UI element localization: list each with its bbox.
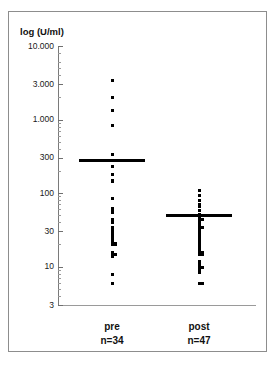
data-point [198, 194, 201, 197]
group-label-post-count: n=47 [159, 334, 239, 348]
y-axis-major-tick [58, 84, 63, 85]
y-axis-tick-label: 3 [8, 300, 54, 310]
data-point [111, 273, 114, 276]
y-axis-minor-tick [58, 289, 61, 290]
data-point [111, 124, 114, 127]
data-point [111, 173, 114, 176]
data-point [111, 211, 114, 214]
data-point [198, 189, 201, 192]
y-axis-minor-tick [58, 123, 61, 124]
y-axis-minor-tick [58, 53, 61, 54]
y-axis-title: log (U/ml) [20, 26, 64, 37]
y-axis-minor-tick [58, 222, 61, 223]
data-point [111, 197, 114, 200]
y-axis-minor-tick [58, 136, 61, 137]
plot-area: log (U/ml) 10.0003.0001.00030010030103 p… [0, 0, 278, 365]
median-line-post [166, 214, 232, 217]
y-axis-tick-label: 10.000 [8, 41, 54, 51]
y-axis-major-tick [58, 158, 63, 159]
y-axis-tick-label: 1.000 [8, 114, 54, 124]
data-point [114, 253, 117, 256]
y-axis-minor-tick [58, 127, 61, 128]
y-axis-tick-label-text: 3 [10, 300, 54, 310]
y-axis-major-tick [58, 267, 63, 268]
median-line-pre [79, 159, 145, 162]
data-point [111, 255, 114, 258]
data-point [111, 180, 114, 183]
data-point [111, 165, 114, 168]
data-point [201, 218, 204, 221]
y-axis-minor-tick [58, 270, 61, 271]
y-axis-major-tick [58, 193, 63, 194]
y-axis-minor-tick [58, 68, 61, 69]
data-point [111, 79, 114, 82]
y-axis-minor-tick [58, 274, 61, 275]
y-axis-minor-tick [58, 75, 61, 76]
y-axis-minor-tick [58, 171, 61, 172]
data-point [201, 282, 204, 285]
data-point [111, 282, 114, 285]
data-point [114, 243, 117, 246]
group-label-post: post n=47 [159, 320, 239, 348]
group-label-pre: pre n=34 [72, 320, 152, 348]
y-axis-tick-label-text: 30 [10, 226, 54, 236]
y-axis-tick-label: 100 [8, 188, 54, 198]
y-axis-minor-tick [58, 62, 61, 63]
y-axis-minor-tick [58, 204, 61, 205]
data-point [198, 209, 201, 212]
data-point [201, 253, 204, 256]
y-axis-tick-label-text: 1.000 [10, 114, 54, 124]
data-point [201, 266, 204, 269]
y-axis-tick-label-text: 300 [10, 152, 54, 162]
data-point [111, 96, 114, 99]
y-axis-major-tick [58, 46, 63, 47]
y-axis-minor-tick [58, 278, 61, 279]
data-point [198, 205, 201, 208]
y-axis-tick-label: 3.000 [8, 79, 54, 89]
y-axis-tick-label-text: 10.000 [10, 41, 54, 51]
y-axis-minor-tick [58, 283, 61, 284]
data-point [111, 218, 114, 221]
data-point [111, 235, 114, 238]
y-axis-major-tick [58, 231, 63, 232]
data-point [201, 226, 204, 229]
y-axis-minor-tick [58, 142, 61, 143]
y-axis-minor-tick [58, 215, 61, 216]
data-point [111, 221, 114, 224]
y-axis-minor-tick [58, 196, 61, 197]
y-axis-major-tick [58, 305, 63, 306]
y-axis-tick-label: 300 [8, 152, 54, 162]
y-axis-minor-tick [58, 200, 61, 201]
group-label-post-text: post [188, 321, 209, 332]
figure-root: log (U/ml) 10.0003.0001.00030010030103 p… [0, 0, 278, 365]
y-axis-minor-tick [58, 97, 61, 98]
x-axis-baseline [58, 305, 256, 306]
y-axis-minor-tick [58, 244, 61, 245]
data-point [198, 199, 201, 202]
y-axis-minor-tick [58, 131, 61, 132]
y-axis-tick-label-text: 100 [10, 188, 54, 198]
data-point [111, 153, 114, 156]
y-axis-minor-tick [58, 296, 61, 297]
y-axis-tick-label: 30 [8, 226, 54, 236]
y-axis-minor-tick [58, 209, 61, 210]
group-label-pre-count: n=34 [72, 334, 152, 348]
y-axis-minor-tick [58, 149, 61, 150]
group-label-pre-text: pre [104, 321, 120, 332]
y-axis-tick-label: 10 [8, 261, 54, 271]
y-axis-major-tick [58, 120, 63, 121]
data-point [198, 271, 201, 274]
y-axis-tick-label-text: 10 [10, 261, 54, 271]
data-point [111, 109, 114, 112]
y-axis-tick-label-text: 3.000 [10, 79, 54, 89]
